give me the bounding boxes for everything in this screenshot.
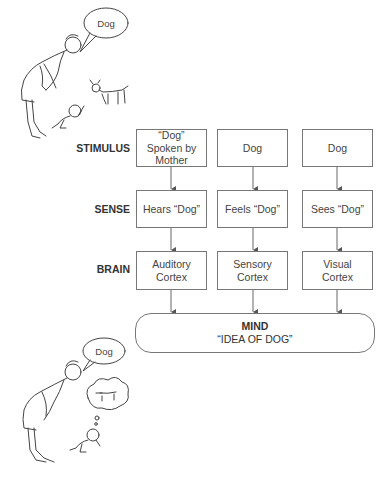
sense-text-hears: Hears “Dog”	[143, 203, 200, 216]
stimulus-text-auditory: “Dog” Spoken by Mother	[147, 129, 197, 167]
row-label-stimulus: STIMULUS	[70, 142, 130, 154]
brain-box-visual-cortex: Visual Cortex	[302, 251, 373, 290]
brain-text-auditory-cortex: Auditory Cortex	[152, 258, 191, 283]
brain-text-visual-cortex: Visual Cortex	[322, 258, 353, 283]
brain-box-auditory-cortex: Auditory Cortex	[136, 251, 207, 290]
row-label-sense: SENSE	[70, 203, 130, 215]
mind-box: MIND “IDEA OF DOG”	[135, 313, 375, 353]
sense-box-feels: Feels “Dog”	[217, 190, 288, 228]
bottom-speech-bubble: Dog	[84, 342, 124, 360]
sense-text-feels: Feels “Dog”	[225, 203, 280, 216]
sense-box-hears: Hears “Dog”	[136, 190, 207, 228]
mind-title: MIND	[242, 320, 269, 333]
stimulus-box-auditory: “Dog” Spoken by Mother	[136, 129, 207, 167]
sense-text-sees: Sees “Dog”	[311, 203, 364, 216]
stimulus-text-visual: Dog	[328, 142, 347, 155]
bottom-speech-text: Dog	[95, 346, 112, 357]
stimulus-text-tactile: Dog	[243, 142, 262, 155]
mind-subtitle: “IDEA OF DOG”	[217, 333, 292, 346]
stimulus-box-visual: Dog	[302, 129, 373, 167]
brain-text-sensory-cortex: Sensory Cortex	[233, 258, 272, 283]
sense-box-sees: Sees “Dog”	[302, 190, 373, 228]
brain-box-sensory-cortex: Sensory Cortex	[217, 251, 288, 290]
stimulus-box-tactile: Dog	[217, 129, 288, 167]
bottom-scene-illustration	[0, 0, 392, 481]
row-label-brain: BRAIN	[70, 263, 130, 275]
